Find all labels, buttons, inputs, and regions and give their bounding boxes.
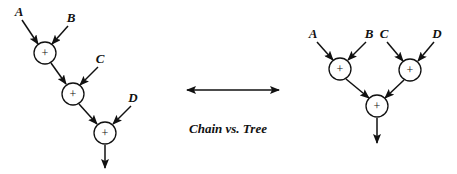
chain-input-d-label: D: [127, 90, 138, 105]
chain-adder-node-2: +: [62, 83, 84, 105]
tree-adder-node-left: +: [329, 58, 351, 80]
tree-adder-node-right: +: [399, 59, 421, 81]
arrow-d-to-node3: [113, 106, 131, 124]
arrow-left-to-root: [346, 79, 369, 98]
chain-adder-node-1: +: [34, 42, 56, 64]
arrow-a-to-left-node: [317, 42, 333, 60]
diagram-caption: Chain vs. Tree: [189, 121, 267, 136]
arrow-c-to-right-node: [387, 42, 403, 61]
chain-input-c-label: C: [96, 51, 105, 66]
arrow-d-to-right-node: [418, 42, 434, 61]
plus-icon: +: [70, 87, 77, 101]
chain-input-a-label: A: [14, 4, 24, 19]
chain-vs-tree-diagram: + + + A B C D Chain vs. Tree +: [0, 0, 457, 174]
arrow-right-to-root: [385, 80, 404, 98]
arrow-node1-to-node2: [51, 63, 66, 84]
arrow-b-to-left-node: [348, 42, 366, 60]
plus-icon: +: [42, 46, 49, 60]
arrow-node2-to-node3: [79, 104, 97, 124]
tree-adder-node-root: +: [366, 95, 388, 117]
plus-icon: +: [407, 63, 414, 77]
plus-icon: +: [374, 99, 381, 113]
chain-adder-node-3: +: [94, 122, 116, 144]
arrow-c-to-node2: [80, 67, 98, 85]
tree-structure: + + + A B C D: [308, 26, 443, 143]
tree-input-a-label: A: [308, 26, 318, 41]
plus-icon: +: [102, 126, 109, 140]
tree-input-c-label: C: [380, 26, 389, 41]
tree-input-b-label: B: [364, 26, 374, 41]
arrow-a-to-node1: [22, 20, 38, 44]
chain-input-b-label: B: [66, 10, 76, 25]
tree-input-d-label: D: [431, 26, 442, 41]
arrow-b-to-node1: [52, 26, 68, 44]
plus-icon: +: [337, 62, 344, 76]
chain-structure: + + + A B C D: [14, 4, 139, 168]
